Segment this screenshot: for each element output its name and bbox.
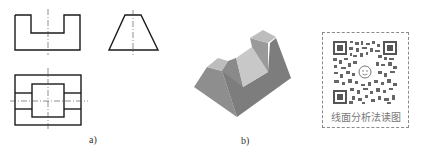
top-view-centerlines: [10, 68, 88, 131]
figure-a-label: a): [89, 134, 97, 145]
front-view: [15, 15, 80, 50]
qr-caption: 线面分析法读图: [331, 109, 401, 124]
isometric-solid: [194, 30, 291, 117]
figure-b-label: b): [241, 135, 249, 146]
side-view: [109, 15, 158, 50]
